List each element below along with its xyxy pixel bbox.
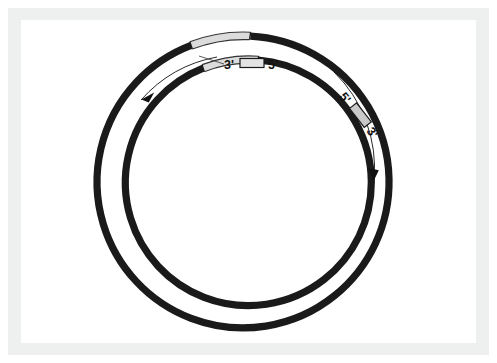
top-label-five-prime: 5' — [268, 58, 278, 72]
outer-strand-light-arc — [191, 36, 250, 46]
outer-strand-dark-arc — [97, 36, 389, 328]
top-label-box — [240, 59, 264, 68]
inner-strand — [125, 56, 371, 306]
figure-root: 3' 5' 5' 3' — [0, 0, 497, 363]
circular-dna-diagram: 3' 5' 5' 3' — [21, 20, 476, 343]
inner-strand-dark-arc — [125, 60, 371, 306]
top-label-three-prime: 3' — [224, 58, 234, 72]
figure-panel: 3' 5' 5' 3' — [21, 20, 476, 343]
outer-strand — [97, 32, 389, 328]
